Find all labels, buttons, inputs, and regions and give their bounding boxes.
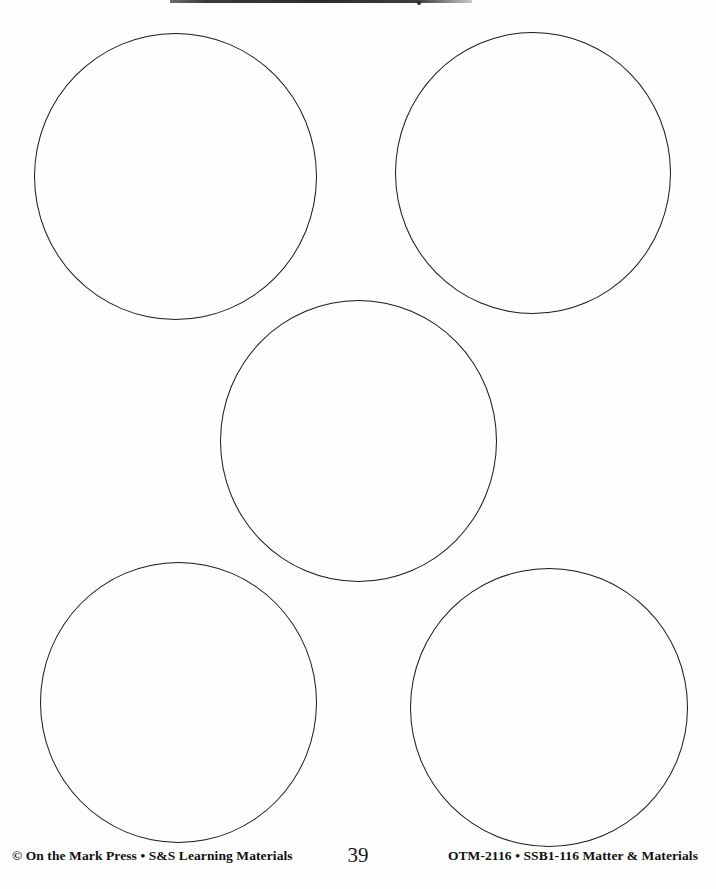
- footer-catalog-code: OTM-2116 • SSB1-116 Matter & Materials: [448, 848, 698, 864]
- worksheet-page: © On the Mark Press • S&S Learning Mater…: [0, 0, 716, 889]
- circle-center: [220, 300, 497, 582]
- page-footer: © On the Mark Press • S&S Learning Mater…: [0, 845, 716, 875]
- circle-top-left: [34, 33, 317, 320]
- circle-top-right: [395, 32, 671, 314]
- scan-speck-icon: [417, 1, 421, 5]
- paper-noise-band: [0, 872, 716, 889]
- scan-edge-bar: [170, 0, 472, 3]
- circle-bottom-right: [410, 568, 688, 847]
- circle-bottom-left: [40, 562, 317, 843]
